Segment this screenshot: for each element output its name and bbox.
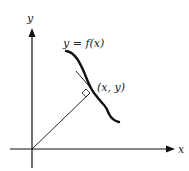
right-angle-marker — [82, 89, 90, 97]
point-label: (x, y) — [97, 81, 125, 94]
y-axis-arrow-icon — [29, 28, 36, 37]
x-axis-arrow-icon — [166, 146, 175, 153]
y-axis-label: y — [26, 12, 34, 25]
x-axis-label: x — [178, 143, 185, 156]
diagram-svg: y x y = f(x) (x, y) — [0, 0, 189, 171]
curve-label: y = f(x) — [62, 37, 104, 50]
origin-to-point-line — [32, 93, 90, 149]
diagram-canvas: y x y = f(x) (x, y) — [0, 0, 189, 171]
